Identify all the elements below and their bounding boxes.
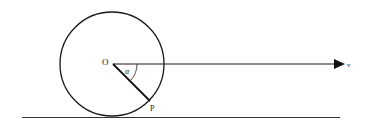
angle-arc: [131, 64, 137, 80]
radius-op: [113, 64, 150, 101]
angle-label: α: [125, 67, 130, 76]
center-label: O: [102, 57, 109, 67]
diagram-canvas: v α O P: [0, 0, 366, 127]
velocity-label: v: [347, 61, 351, 69]
velocity-arrowhead: [334, 59, 345, 69]
point-label: P: [150, 104, 155, 113]
